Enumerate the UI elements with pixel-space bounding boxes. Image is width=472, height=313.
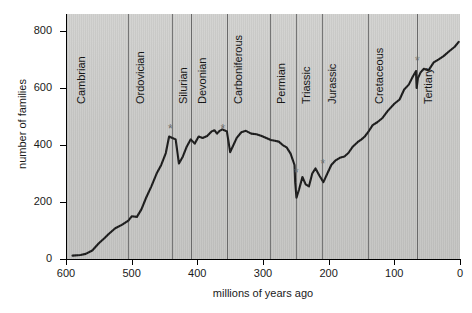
y-tick-label-800: 800 (8, 25, 52, 36)
period-label-carboniferous: Carboniferous (233, 35, 244, 104)
extinction-marker-end-permian: * (294, 168, 299, 178)
period-label-jurassic: Jurassic (327, 64, 338, 104)
x-tick-200 (329, 259, 330, 265)
period-label-triassic: Triassic (301, 67, 312, 104)
extinction-marker-late-devonian: * (221, 124, 226, 134)
figure-root: ***** CambrianOrdovicianSilurianDevonian… (0, 0, 472, 313)
y-axis-line (66, 14, 67, 260)
plot-area: ***** CambrianOrdovicianSilurianDevonian… (66, 14, 460, 259)
y-tick-600 (60, 88, 66, 89)
y-tick-400 (60, 145, 66, 146)
x-tick-100 (394, 259, 395, 265)
period-label-permian: Permian (276, 63, 287, 104)
x-tick-label-600: 600 (46, 268, 86, 279)
x-tick-label-0: 0 (440, 268, 472, 279)
x-tick-300 (263, 259, 264, 265)
x-tick-400 (197, 259, 198, 265)
y-tick-label-600: 600 (8, 82, 52, 93)
y-tick-label-200: 200 (8, 196, 52, 207)
period-label-ordovician: Ordovician (135, 51, 146, 104)
period-label-cretaceous: Cretaceous (374, 48, 385, 104)
period-label-silurian: Silurian (178, 67, 189, 104)
period-label-cambrian: Cambrian (76, 56, 87, 104)
extinction-marker-end-triassic: * (320, 159, 325, 169)
y-tick-800 (60, 31, 66, 32)
period-label-devonian: Devonian (197, 58, 208, 104)
y-tick-label-400: 400 (8, 139, 52, 150)
extinction-marker-end-cretaceous: * (415, 56, 420, 66)
y-tick-200 (60, 202, 66, 203)
x-tick-label-400: 400 (177, 268, 217, 279)
y-tick-label-0: 0 (8, 253, 52, 264)
x-tick-label-100: 100 (374, 268, 414, 279)
x-tick-label-500: 500 (112, 268, 152, 279)
y-axis-title: number of families (16, 54, 28, 194)
x-tick-label-200: 200 (309, 268, 349, 279)
x-tick-500 (132, 259, 133, 265)
curve-polyline (73, 42, 459, 256)
extinction-marker-end-ordovician: * (168, 124, 173, 134)
diversity-curve (66, 14, 460, 259)
x-tick-600 (66, 259, 67, 265)
x-axis-title: millions of years ago (66, 287, 460, 299)
period-label-tertiary: Tertiary (423, 68, 434, 104)
x-tick-0 (460, 259, 461, 265)
x-tick-label-300: 300 (243, 268, 283, 279)
